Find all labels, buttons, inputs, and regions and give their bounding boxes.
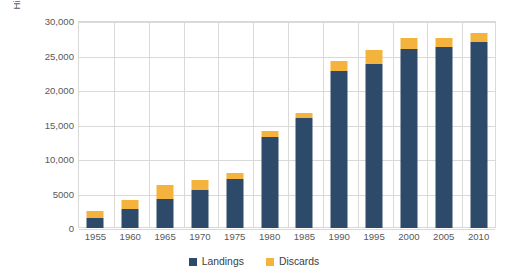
x-axis-tick-label: 1980 [259, 231, 280, 242]
legend-item-discards[interactable]: Discards [266, 256, 319, 267]
bar-slot [426, 21, 461, 228]
bar-segment-landings[interactable] [331, 71, 348, 228]
bar-stack[interactable] [470, 33, 487, 228]
bar-slot [183, 21, 218, 228]
bar-segment-landings[interactable] [226, 179, 243, 228]
bar-slot [357, 21, 392, 228]
x-axis-tick-labels: 1955196019651970197519801985199019952000… [78, 231, 496, 247]
x-axis-tick-label: 1965 [154, 231, 175, 242]
bar-slot [287, 21, 322, 228]
bar-stack[interactable] [191, 180, 208, 228]
x-axis-tick-label: 1975 [224, 231, 245, 242]
bar-segment-discards[interactable] [191, 180, 208, 190]
y-axis-title: High seas catch (x1000) tons per 5 years [6, 0, 28, 40]
horizontal-gridline [79, 229, 495, 230]
bar-segment-landings[interactable] [400, 49, 417, 228]
y-axis-tick-labels: 0500010,00015,00020,00025,00030,000 [26, 21, 74, 228]
y-axis-tick-label: 15,000 [28, 119, 74, 130]
bars-container [78, 21, 496, 228]
x-axis-tick-label: 2000 [398, 231, 419, 242]
bar-slot [392, 21, 427, 228]
bar-slot [322, 21, 357, 228]
bar-segment-discards[interactable] [87, 211, 104, 218]
y-axis-tick-label: 30,000 [28, 16, 74, 27]
y-axis-tick-label: 0 [28, 223, 74, 234]
bar-segment-discards[interactable] [366, 50, 383, 64]
bar-segment-discards[interactable] [400, 38, 417, 49]
y-axis-tick-label: 25,000 [28, 50, 74, 61]
legend-swatch-icon [266, 258, 274, 266]
bar-segment-discards[interactable] [435, 38, 452, 46]
legend-label: Discards [279, 256, 319, 267]
bar-segment-discards[interactable] [470, 33, 487, 42]
bar-stack[interactable] [87, 211, 104, 228]
bar-segment-discards[interactable] [122, 200, 139, 209]
bar-stack[interactable] [122, 200, 139, 228]
bar-segment-landings[interactable] [366, 64, 383, 228]
bar-slot [113, 21, 148, 228]
bar-stack[interactable] [296, 113, 313, 228]
bar-stack[interactable] [226, 173, 243, 228]
bar-segment-discards[interactable] [157, 185, 174, 199]
bar-segment-landings[interactable] [261, 137, 278, 228]
legend-swatch-icon [189, 258, 197, 266]
chart-legend: LandingsDiscards [0, 256, 508, 267]
bar-segment-discards[interactable] [331, 61, 348, 71]
bar-stack[interactable] [366, 50, 383, 228]
x-axis-tick-label: 1970 [189, 231, 210, 242]
bar-stack[interactable] [331, 61, 348, 228]
bar-slot [148, 21, 183, 228]
x-axis-tick-label: 1990 [329, 231, 350, 242]
bar-segment-landings[interactable] [470, 42, 487, 228]
bar-slot [461, 21, 496, 228]
bar-stack[interactable] [435, 38, 452, 228]
x-axis-tick-label: 1960 [120, 231, 141, 242]
bar-segment-landings[interactable] [296, 118, 313, 228]
bar-segment-landings[interactable] [122, 209, 139, 228]
bar-segment-landings[interactable] [191, 190, 208, 228]
x-axis-tick-label: 1995 [363, 231, 384, 242]
bar-slot [252, 21, 287, 228]
bar-segment-landings[interactable] [435, 47, 452, 228]
x-axis-tick-label: 2010 [468, 231, 489, 242]
x-axis-tick-label: 2005 [433, 231, 454, 242]
legend-label: Landings [202, 256, 244, 267]
y-axis-tick-label: 5000 [28, 188, 74, 199]
y-axis-title-container: High seas catch (x1000) tons per 5 years [6, 8, 28, 232]
x-axis-tick-label: 1955 [85, 231, 106, 242]
bar-slot [78, 21, 113, 228]
bar-segment-landings[interactable] [87, 218, 104, 228]
y-axis-tick-label: 10,000 [28, 154, 74, 165]
bar-stack[interactable] [157, 185, 174, 228]
bar-stack[interactable] [261, 131, 278, 228]
stacked-bar-chart: High seas catch (x1000) tons per 5 years… [0, 0, 508, 280]
bar-stack[interactable] [400, 38, 417, 228]
y-axis-tick-label: 20,000 [28, 85, 74, 96]
bar-slot [217, 21, 252, 228]
x-axis-tick-label: 1985 [294, 231, 315, 242]
bar-segment-landings[interactable] [157, 199, 174, 228]
legend-item-landings[interactable]: Landings [189, 256, 244, 267]
